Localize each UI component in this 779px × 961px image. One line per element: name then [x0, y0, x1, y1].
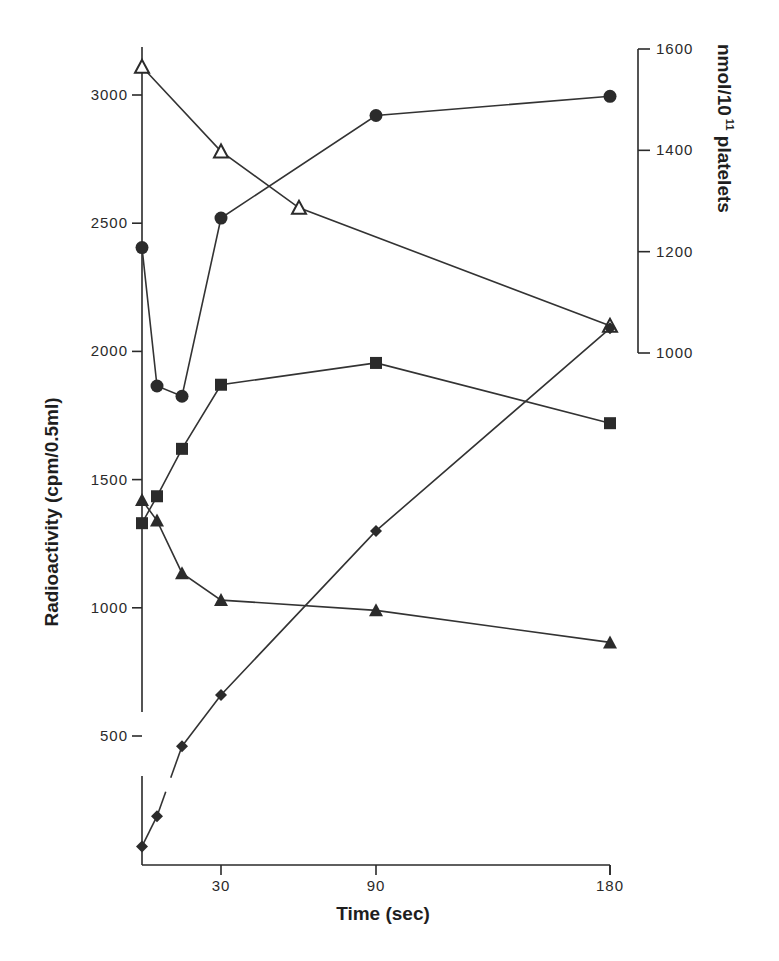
- y2-tick-label: 1200: [656, 243, 693, 260]
- open-triangle-marker: [292, 201, 306, 214]
- series-line: [182, 328, 610, 746]
- filled-triangle-marker: [135, 493, 149, 506]
- series-line: [171, 746, 182, 777]
- series-line: [142, 500, 610, 642]
- y-tick-label: 1500: [91, 471, 128, 488]
- y-axis-title: Radioactivity (cpm/0.5ml): [41, 397, 62, 626]
- labels: 5001000150020002500300030901801000120014…: [41, 40, 736, 924]
- filled-circle-marker: [604, 90, 617, 103]
- filled-circle-marker: [176, 390, 189, 403]
- filled-triangle-marker: [150, 514, 164, 527]
- y-tick-label: 3000: [91, 86, 128, 103]
- filled-diamond-marker: [136, 840, 148, 852]
- y2-tick-label: 1400: [656, 141, 693, 158]
- filled-circle-marker: [136, 241, 149, 254]
- y-tick-label: 500: [100, 727, 128, 744]
- filled-diamond-marker: [151, 810, 163, 822]
- filled-square-marker: [370, 357, 382, 369]
- filled-square-marker: [604, 417, 616, 429]
- series-line: [142, 363, 610, 523]
- y2-axis-title: nmol/10 11 platelets: [714, 44, 736, 213]
- filled-square-marker: [215, 379, 227, 391]
- series-line: [142, 816, 157, 846]
- x-tick-label: 90: [367, 877, 386, 894]
- filled-square-marker: [151, 490, 163, 502]
- x-tick-label: 180: [596, 877, 624, 894]
- filled-square-marker: [136, 517, 148, 529]
- filled-triangle-marker: [175, 566, 189, 579]
- y-tick-label: 1000: [91, 599, 128, 616]
- filled-diamond-series: [136, 322, 616, 852]
- filled-circle-marker: [215, 212, 228, 225]
- open-triangle-series: [135, 60, 617, 332]
- y2-tick-label: 1000: [656, 344, 693, 361]
- series-group: [135, 60, 617, 853]
- y-tick-label: 2500: [91, 214, 128, 231]
- open-triangle-marker: [135, 60, 149, 73]
- y-tick-label: 2000: [91, 342, 128, 359]
- filled-square-marker: [176, 443, 188, 455]
- filled-triangle-marker: [214, 593, 228, 606]
- filled-triangle-series: [135, 493, 617, 648]
- x-tick-label: 30: [212, 877, 231, 894]
- x-axis-title: Time (sec): [336, 903, 430, 924]
- filled-square-series: [136, 357, 616, 529]
- chart: 5001000150020002500300030901801000120014…: [0, 0, 779, 961]
- filled-circle-marker: [151, 380, 164, 393]
- series-line: [142, 67, 610, 326]
- filled-circle-marker: [370, 109, 383, 122]
- filled-diamond-marker: [176, 740, 188, 752]
- axes: [132, 47, 650, 875]
- y2-tick-label: 1600: [656, 40, 693, 57]
